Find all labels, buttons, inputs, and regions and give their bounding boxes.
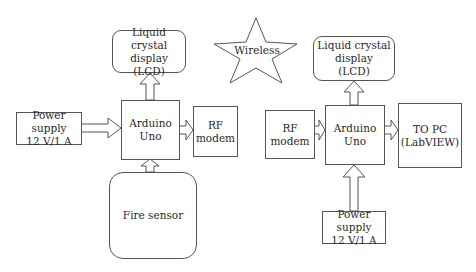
arduino-box-receiver: Arduino Uno <box>325 105 385 165</box>
power-supply-box-transmitter: Power supply 12 V/1 A <box>16 112 82 145</box>
arrow-power-to-arduino <box>81 118 121 138</box>
lcd-label: Liquid crystal display (LCD) <box>317 39 390 78</box>
arrow-power-to-arduino-right <box>343 165 365 211</box>
arrow-arduino-to-pc <box>384 120 398 140</box>
lcd-label: Liquid crystal display (LCD) <box>113 26 185 78</box>
power-supply-box-receiver: Power supply 12 V/1 A <box>322 211 386 244</box>
arrow-rf-to-arduino-right <box>314 120 325 140</box>
power-supply-label: Power supply 12 V/1 A <box>17 109 81 148</box>
rf-modem-label: RF modem <box>270 122 309 148</box>
arrow-sensor-to-arduino <box>141 159 159 172</box>
pc-labview-box: TO PC (LabVIEW) <box>398 103 462 168</box>
rf-modem-label: RF modem <box>196 119 235 145</box>
pc-labview-label: TO PC (LabVIEW) <box>401 123 459 149</box>
wireless-label: Wireless <box>232 44 282 56</box>
fire-sensor-box: Fire sensor <box>109 172 197 259</box>
lcd-box-transmitter: Liquid crystal display (LCD) <box>112 30 186 73</box>
arduino-label: Arduino Uno <box>334 122 377 148</box>
fire-sensor-label: Fire sensor <box>123 209 183 222</box>
arduino-box-transmitter: Arduino Uno <box>121 100 180 160</box>
rf-modem-box-receiver: RF modem <box>265 110 315 159</box>
rf-modem-box-transmitter: RF modem <box>193 106 238 157</box>
lcd-box-receiver: Liquid crystal display (LCD) <box>313 36 395 81</box>
arrow-arduino-to-rf <box>179 120 193 140</box>
arduino-label: Arduino Uno <box>129 117 172 143</box>
power-supply-label: Power supply 12 V/1 A <box>323 208 385 247</box>
arrow-arduino-to-lcd-right <box>344 81 364 105</box>
